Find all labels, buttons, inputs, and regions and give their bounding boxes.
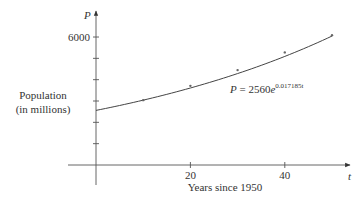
population-chart: P t 6000 2040 Population (in millions) Y… [0,0,361,202]
data-point [236,69,238,71]
y-tick-label: 6000 [68,31,91,43]
data-point [189,85,191,87]
model-equation: P = 2560e0.017185t [229,82,304,95]
data-point [142,99,144,101]
y-axis-label-line2: (in millions) [16,103,71,116]
model-curve [96,36,332,110]
y-axis-label-line1: Population [19,89,67,101]
x-tick-label: 20 [185,169,197,181]
y-axis-ticks: 6000 [68,31,99,144]
x-axis-symbol: t [348,170,352,182]
data-point [284,51,286,53]
y-axis-symbol: P [83,9,91,21]
x-tick-label: 40 [279,169,291,181]
x-axis-label: Years since 1950 [188,181,263,193]
data-point [331,34,333,36]
